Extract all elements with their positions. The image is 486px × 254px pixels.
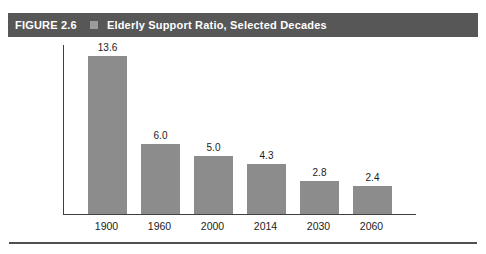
bar-column: 5.0	[194, 156, 233, 214]
bar	[247, 164, 286, 214]
square-bullet-icon	[90, 21, 98, 29]
figure-header: FIGURE 2.6 Elderly Support Ratio, Select…	[8, 13, 478, 37]
bar-chart-plot-area: 13.66.05.04.32.82.4	[63, 45, 416, 215]
figure-title: Elderly Support Ratio, Selected Decades	[107, 19, 327, 31]
x-tick-label: 2000	[193, 220, 232, 233]
bar-value-label: 4.3	[247, 150, 286, 161]
bar-value-label: 2.4	[353, 172, 392, 183]
bar-column: 6.0	[141, 144, 180, 214]
bar-column: 13.6	[88, 56, 127, 214]
bar-value-label: 2.8	[300, 167, 339, 178]
x-axis-labels: 190019602000201420302060	[63, 220, 416, 233]
bar-column: 2.4	[353, 186, 392, 214]
bar-value-label: 5.0	[194, 142, 233, 153]
bottom-rule	[9, 242, 477, 244]
bar	[141, 144, 180, 214]
bar	[353, 186, 392, 214]
bar	[194, 156, 233, 214]
x-tick-label: 2030	[299, 220, 338, 233]
bar-value-label: 13.6	[88, 42, 127, 53]
x-tick-label: 2014	[246, 220, 285, 233]
bar-column: 2.8	[300, 181, 339, 214]
x-tick-label: 1900	[87, 220, 126, 233]
bar-column: 4.3	[247, 164, 286, 214]
bar	[88, 56, 127, 214]
x-tick-label: 1960	[140, 220, 179, 233]
bar	[300, 181, 339, 214]
bar-value-label: 6.0	[141, 130, 180, 141]
figure-number-label: FIGURE 2.6	[15, 19, 77, 31]
x-tick-label: 2060	[352, 220, 391, 233]
